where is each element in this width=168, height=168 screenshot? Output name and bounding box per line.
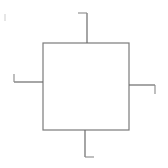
- line-drawing: [0, 0, 168, 168]
- figure-canvas: Four-terminal block symbol Hand-drawn li…: [0, 0, 168, 168]
- scan-speck: [4, 14, 6, 21]
- canvas-background: [0, 0, 168, 168]
